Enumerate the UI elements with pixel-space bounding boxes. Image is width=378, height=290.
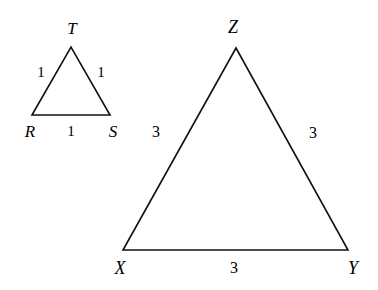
geometry-figure: R S T 1 1 1 X Y Z 3 3 3	[0, 0, 378, 290]
side-length-ZY: 3	[309, 125, 317, 141]
small-triangle-outline	[32, 47, 110, 115]
side-length-TS: 1	[97, 65, 105, 80]
vertex-label-Y: Y	[348, 259, 358, 277]
vertex-label-S: S	[109, 123, 118, 140]
side-length-RT: 1	[37, 65, 45, 80]
side-length-RS: 1	[67, 124, 75, 139]
large-triangle-outline	[123, 48, 348, 250]
side-length-XY: 3	[230, 260, 238, 276]
triangles-drawing	[0, 0, 378, 290]
vertex-label-R: R	[25, 123, 35, 140]
vertex-label-T: T	[67, 20, 76, 37]
side-length-XZ: 3	[152, 124, 160, 140]
vertex-label-Z: Z	[228, 18, 238, 36]
vertex-label-X: X	[115, 259, 126, 277]
